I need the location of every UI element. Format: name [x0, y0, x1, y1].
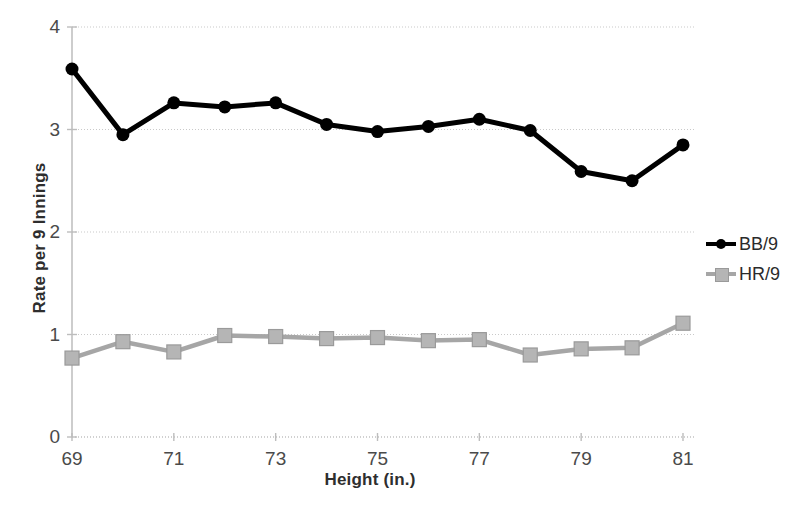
data-point-BB9-80: [626, 174, 639, 187]
data-point-HR9-81: [676, 316, 690, 330]
data-point-HR9-73: [269, 330, 283, 344]
x-axis-title: Height (in.): [0, 470, 740, 490]
axis-lines: [67, 27, 695, 441]
gridlines: [72, 27, 695, 437]
data-point-HR9-76: [421, 334, 435, 348]
data-point-HR9-72: [218, 329, 232, 343]
chart-legend: BB/9 HR/9: [706, 229, 785, 289]
x-tick-label-81: 81: [663, 449, 703, 468]
y-tick-label-4: 4: [30, 17, 60, 36]
plot-area: [0, 0, 785, 510]
data-point-BB9-76: [422, 120, 435, 133]
x-tick-label-73: 73: [256, 449, 296, 468]
x-tick-label-71: 71: [154, 449, 194, 468]
legend-label-hr9: HR/9: [739, 264, 780, 285]
data-point-BB9-75: [371, 125, 384, 138]
x-tick-label-79: 79: [561, 449, 601, 468]
x-tick-label-75: 75: [358, 449, 398, 468]
legend-label-bb9: BB/9: [739, 234, 778, 255]
legend-marker-square-icon: [706, 266, 736, 282]
data-point-HR9-80: [625, 341, 639, 355]
data-point-BB9-71: [167, 96, 180, 109]
data-point-HR9-79: [574, 342, 588, 356]
y-axis-title: Rate per 9 Innings: [30, 128, 50, 348]
data-point-HR9-78: [523, 348, 537, 362]
series-line-BB9: [72, 69, 683, 181]
legend-item-hr9: HR/9: [706, 259, 785, 289]
data-point-BB9-79: [575, 165, 588, 178]
chart-container: 01234 69717375777981 Rate per 9 Innings …: [0, 0, 785, 510]
data-point-HR9-77: [472, 333, 486, 347]
data-point-HR9-69: [65, 351, 79, 365]
data-point-HR9-75: [371, 331, 385, 345]
data-point-BB9-72: [218, 100, 231, 113]
legend-item-bb9: BB/9: [706, 229, 785, 259]
data-point-HR9-74: [320, 332, 334, 346]
data-point-BB9-78: [524, 124, 537, 137]
data-point-BB9-81: [677, 138, 690, 151]
data-point-BB9-77: [473, 113, 486, 126]
legend-marker-circle-icon: [706, 236, 736, 252]
x-tick-label-77: 77: [459, 449, 499, 468]
data-point-HR9-71: [167, 345, 181, 359]
data-point-BB9-74: [320, 118, 333, 131]
y-tick-label-0: 0: [30, 427, 60, 446]
data-point-BB9-73: [269, 96, 282, 109]
data-point-HR9-70: [116, 335, 130, 349]
data-series: [65, 63, 690, 366]
x-tick-label-69: 69: [52, 449, 92, 468]
data-point-BB9-70: [116, 128, 129, 141]
data-point-BB9-69: [66, 63, 79, 76]
